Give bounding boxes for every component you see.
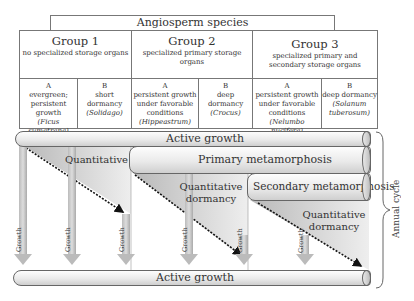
arrow-head-icon xyxy=(296,254,314,265)
primary-metamorphosis-bar: Primary metamorphosis xyxy=(129,146,371,174)
active-growth-bottom-bar: Active growth xyxy=(13,270,371,286)
growth-arrow-3: Growth xyxy=(122,214,130,254)
secondary-metamorphosis-bar: Secondary metamorphosis xyxy=(247,173,371,201)
arrow-head-icon xyxy=(14,254,32,265)
quantitative-dormancy-label-1: Quantitative dormancy xyxy=(65,154,129,166)
arrow-head-icon xyxy=(180,254,198,265)
growth-arrow-5: Growth xyxy=(240,235,248,254)
growth-arrow-6: Growth xyxy=(301,235,309,254)
arrow-head-icon xyxy=(117,254,135,265)
quantitative-dormancy-label-2: Quantitative dormancy xyxy=(175,181,247,205)
annual-cycle-label: Annual cycle xyxy=(391,174,401,244)
quantitative-dormancy-label-3: Quantitative dormancy xyxy=(300,209,368,233)
arrow-head-icon xyxy=(63,254,81,265)
arrow-head-icon xyxy=(235,254,253,265)
active-growth-top-bar: Active growth xyxy=(15,131,371,147)
growth-arrow-1: Growth xyxy=(19,146,27,254)
